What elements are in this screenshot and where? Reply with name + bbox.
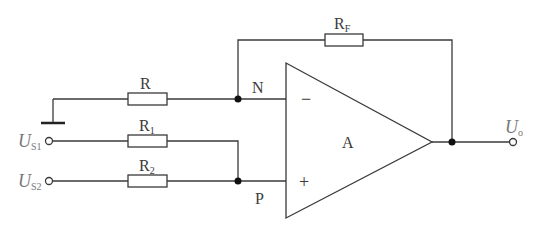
resistor-r1 (128, 135, 167, 147)
terminal-us2[interactable] (46, 178, 53, 185)
resistor-r2 (128, 175, 167, 187)
opamp-label: A (342, 134, 354, 151)
terminal-us1[interactable] (46, 138, 53, 145)
ground-symbol (41, 99, 65, 123)
label-us2: US2 (18, 171, 42, 192)
label-uo: Uo (505, 117, 523, 138)
label-r: R (140, 75, 151, 92)
label-r2: R2 (139, 157, 155, 176)
circuit-diagram: R RF R1 US1 R2 US2 − + A N P Uo (0, 0, 542, 241)
node-output (449, 139, 456, 146)
circuit-svg: R RF R1 US1 R2 US2 − + A N P Uo (0, 0, 542, 241)
resistor-rf (325, 34, 363, 46)
label-r1: R1 (139, 117, 155, 136)
resistor-r (128, 93, 167, 105)
terminal-output[interactable] (510, 139, 517, 146)
opamp-triangle (286, 63, 432, 218)
label-n: N (252, 79, 264, 96)
label-us1: US1 (18, 131, 42, 152)
node-p (235, 178, 242, 185)
label-p: P (255, 190, 264, 207)
label-rf: RF (334, 15, 351, 34)
noninverting-sign: + (299, 172, 309, 192)
inverting-sign: − (301, 89, 311, 109)
node-n (235, 96, 242, 103)
